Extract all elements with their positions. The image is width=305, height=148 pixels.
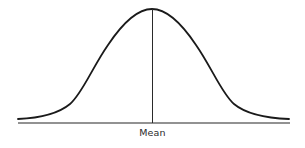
mean-label-container: Mean xyxy=(0,127,305,138)
mean-label: Mean xyxy=(139,127,166,138)
normal-distribution-curve xyxy=(18,9,289,119)
bell-curve-diagram xyxy=(0,0,305,148)
